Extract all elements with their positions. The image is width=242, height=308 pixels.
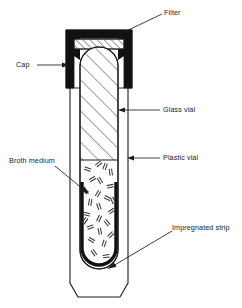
label-broth-medium: Broth medium xyxy=(9,157,55,164)
label-cap: Cap xyxy=(16,61,30,68)
glass-hatching xyxy=(78,47,122,160)
label-impregnated-strip: Impregnated strip xyxy=(172,224,230,231)
vial-cross-section-drawing xyxy=(0,0,242,308)
leader-filter xyxy=(118,14,162,35)
label-plastic-vial: Plastic vial xyxy=(163,154,198,161)
label-glass-vial: Glass vial xyxy=(163,106,195,113)
label-filter: Filter xyxy=(164,9,181,16)
diagram-canvas: Filter Cap Glass vial Plastic vial Broth… xyxy=(0,0,242,308)
